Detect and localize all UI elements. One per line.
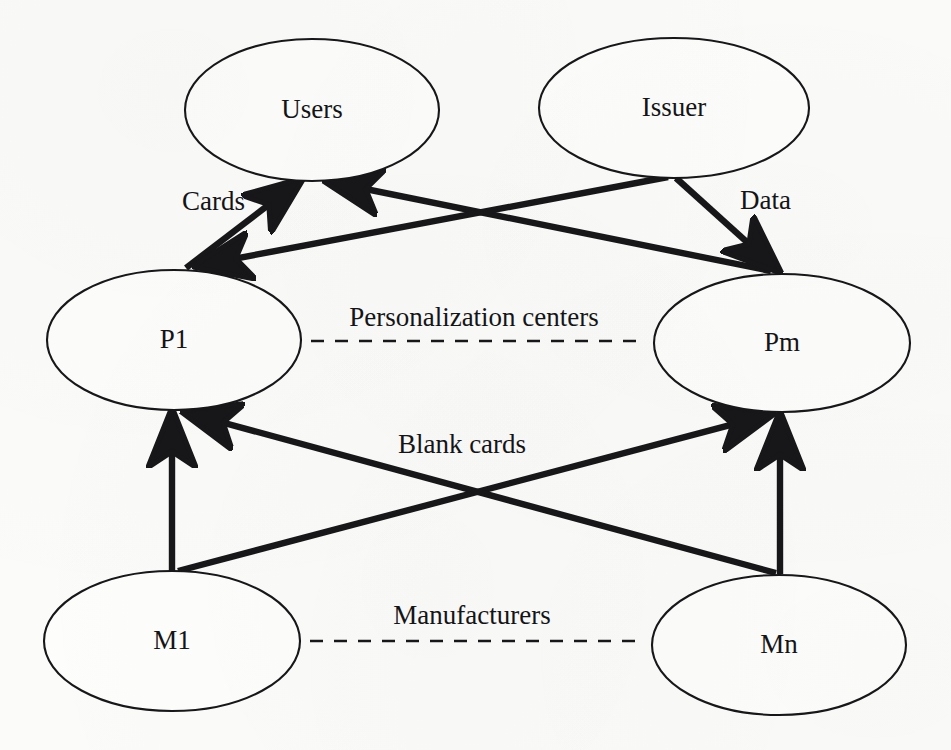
group-manufacturers-label: Manufacturers <box>393 600 550 630</box>
node-mn-label: Mn <box>760 629 798 659</box>
node-p1[interactable]: P1 <box>47 270 301 410</box>
node-m1-label: M1 <box>153 625 191 655</box>
supply-chain-diagram: Users Issuer P1 Pm M1 Mn <box>0 0 951 750</box>
diagram-canvas: Users Issuer P1 Pm M1 Mn <box>0 0 951 750</box>
node-issuer-label: Issuer <box>642 92 706 122</box>
group-manufacturers: Manufacturers <box>310 600 637 641</box>
group-layer: Personalization centers Manufacturers <box>310 302 638 641</box>
node-users[interactable]: Users <box>185 39 439 181</box>
node-mn[interactable]: Mn <box>652 575 906 715</box>
node-issuer[interactable]: Issuer <box>539 38 809 178</box>
flow-label-data: Data <box>740 185 791 215</box>
node-users-label: Users <box>281 94 343 124</box>
group-personalization-centers-label: Personalization centers <box>349 302 599 332</box>
flow-label-blank-cards: Blank cards <box>398 429 526 459</box>
edge-issuer-to-p1 <box>196 177 668 266</box>
flow-label-cards: Cards <box>182 186 245 216</box>
node-m1[interactable]: M1 <box>44 571 300 711</box>
node-pm[interactable]: Pm <box>654 274 910 412</box>
node-p1-label: P1 <box>160 324 189 354</box>
node-pm-label: Pm <box>764 327 800 357</box>
group-personalization-centers: Personalization centers <box>311 302 638 341</box>
